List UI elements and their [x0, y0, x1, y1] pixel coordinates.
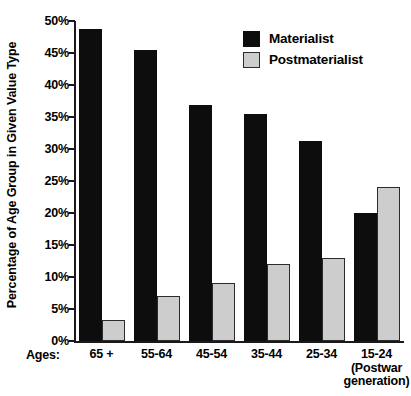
y-axis-title: Percentage of Age Group in Given Value T…: [0, 0, 24, 350]
x-axis-category-sublabel: generation): [327, 375, 411, 389]
x-axis-labels: Ages: 65 +55-6445-5435-4425-3415-24(Post…: [0, 348, 411, 396]
bar-materialist: [244, 114, 267, 341]
y-axis-tick-label: 45%: [45, 46, 69, 60]
x-axis-category-text: 15-24: [361, 347, 392, 361]
y-axis-tick-label: 0%: [51, 334, 69, 348]
bar-materialist: [299, 141, 322, 341]
y-axis-tick-label: 10%: [45, 270, 69, 284]
bar-postmaterialist: [212, 283, 235, 341]
bar-postmaterialist: [377, 187, 400, 341]
bar-postmaterialist: [157, 296, 180, 341]
legend-item-label: Postmaterialist: [269, 52, 363, 67]
gray-square-icon: [243, 52, 260, 68]
bar-group: [184, 21, 239, 341]
bar-postmaterialist: [102, 320, 125, 341]
y-axis-tick-label: 5%: [51, 302, 69, 316]
legend-item-label: Materialist: [269, 31, 334, 46]
y-axis-tick-label: 20%: [45, 206, 69, 220]
black-square-icon: [243, 31, 260, 47]
bar-postmaterialist: [267, 264, 290, 341]
bar-group: [74, 21, 129, 341]
bar-materialist: [189, 105, 212, 341]
x-axis-line: [74, 341, 404, 343]
bar-chart: Percentage of Age Group in Given Value T…: [0, 0, 411, 396]
bar-materialist: [79, 29, 102, 341]
bar-group: [129, 21, 184, 341]
legend-item: Postmaterialist: [243, 49, 363, 70]
bar-materialist: [134, 50, 157, 341]
y-axis-tick-label: 30%: [45, 142, 69, 156]
y-axis-title-text: Percentage of Age Group in Given Value T…: [5, 42, 19, 309]
x-axis-category-label: 15-24(Postwargeneration): [327, 348, 411, 389]
x-axis-category-sublabel: (Postwar: [327, 362, 411, 376]
y-axis-tick-label: 25%: [45, 174, 69, 188]
y-axis-tick-label: 15%: [45, 238, 69, 252]
y-axis-tick-label: 40%: [45, 78, 69, 92]
y-axis-tick-labels: 0%5%10%15%20%25%30%35%40%45%50%: [26, 0, 72, 396]
legend: MaterialistPostmaterialist: [243, 28, 363, 70]
bar-postmaterialist: [322, 258, 345, 341]
y-axis-tick-label: 35%: [45, 110, 69, 124]
y-axis-tick-label: 50%: [45, 14, 69, 28]
bar-materialist: [354, 213, 377, 341]
legend-item: Materialist: [243, 28, 363, 49]
